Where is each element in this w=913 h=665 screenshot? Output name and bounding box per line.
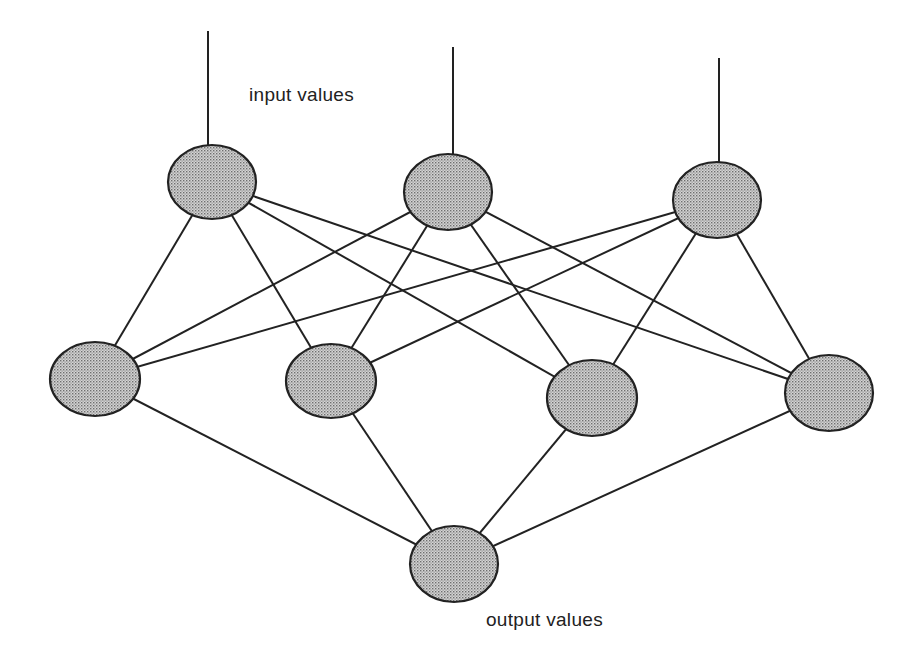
hidden-node-4	[785, 355, 873, 431]
edge-input3-hidden1	[95, 200, 717, 379]
edge-hidden4-output1	[454, 393, 829, 564]
input-node-1	[168, 145, 256, 219]
input-node-3	[673, 162, 761, 238]
hidden-node-3	[547, 360, 637, 436]
hidden-node-1	[50, 342, 140, 416]
input-values-label: input values	[249, 84, 354, 106]
output-node-1	[410, 526, 498, 602]
connection-lines	[95, 31, 829, 564]
edge-hidden1-output1	[95, 379, 454, 564]
neuron-nodes	[50, 145, 873, 602]
output-values-label: output values	[486, 609, 603, 631]
neural-network-diagram	[0, 0, 913, 665]
hidden-node-2	[286, 344, 376, 418]
input-node-2	[404, 154, 492, 230]
